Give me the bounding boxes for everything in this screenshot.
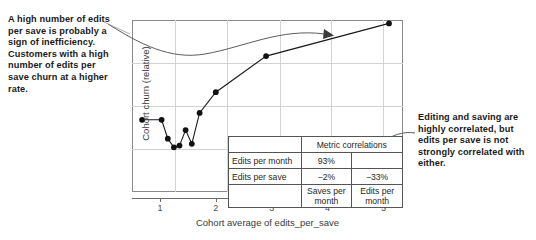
annotation-right: Editing and saving are highly correlated… (418, 112, 534, 170)
table-value-cell: 93% (301, 153, 352, 169)
data-point (171, 144, 177, 150)
table-row: Edits per month93% (229, 153, 403, 169)
table-row-label: Edits per month (229, 153, 302, 169)
data-point (183, 127, 189, 133)
data-point (197, 110, 203, 116)
x-tick-label: 1 (150, 203, 170, 213)
x-tick-label: 2 (206, 203, 226, 213)
data-point (386, 21, 392, 27)
x-axis-label: Cohort average of edits_per_save (132, 217, 403, 228)
table-header-row: Metric correlations (229, 137, 403, 153)
table-corner-spacer (229, 185, 302, 208)
table-column-header-row: Saves per monthEdits per month (229, 185, 403, 208)
table-title-cell: Metric correlations (301, 137, 402, 153)
table-corner-spacer (229, 137, 302, 153)
table-row-label: Edits per save (229, 169, 302, 185)
data-point (263, 53, 269, 59)
x-tick (160, 198, 161, 202)
x-tick (216, 198, 217, 202)
table-row: Edits per save−2%−33% (229, 169, 403, 185)
data-point (159, 117, 165, 123)
table-column-header: Edits per month (352, 185, 403, 208)
table-value-cell: −33% (352, 169, 403, 185)
table-body: Metric correlationsEdits per month93%Edi… (229, 137, 403, 208)
table-column-header: Saves per month (301, 185, 352, 208)
metric-correlations-table: Metric correlationsEdits per month93%Edi… (228, 136, 403, 208)
series-line (142, 23, 389, 147)
data-point (177, 143, 183, 149)
annotation-left: A high number of edits per save is proba… (8, 14, 112, 95)
table-value-cell: −2% (301, 169, 352, 185)
data-point (165, 136, 171, 142)
data-point (189, 141, 195, 147)
y-axis-label: Cohort churn (relative) (140, 19, 151, 169)
data-point (213, 89, 219, 95)
table-value-cell (352, 153, 403, 169)
